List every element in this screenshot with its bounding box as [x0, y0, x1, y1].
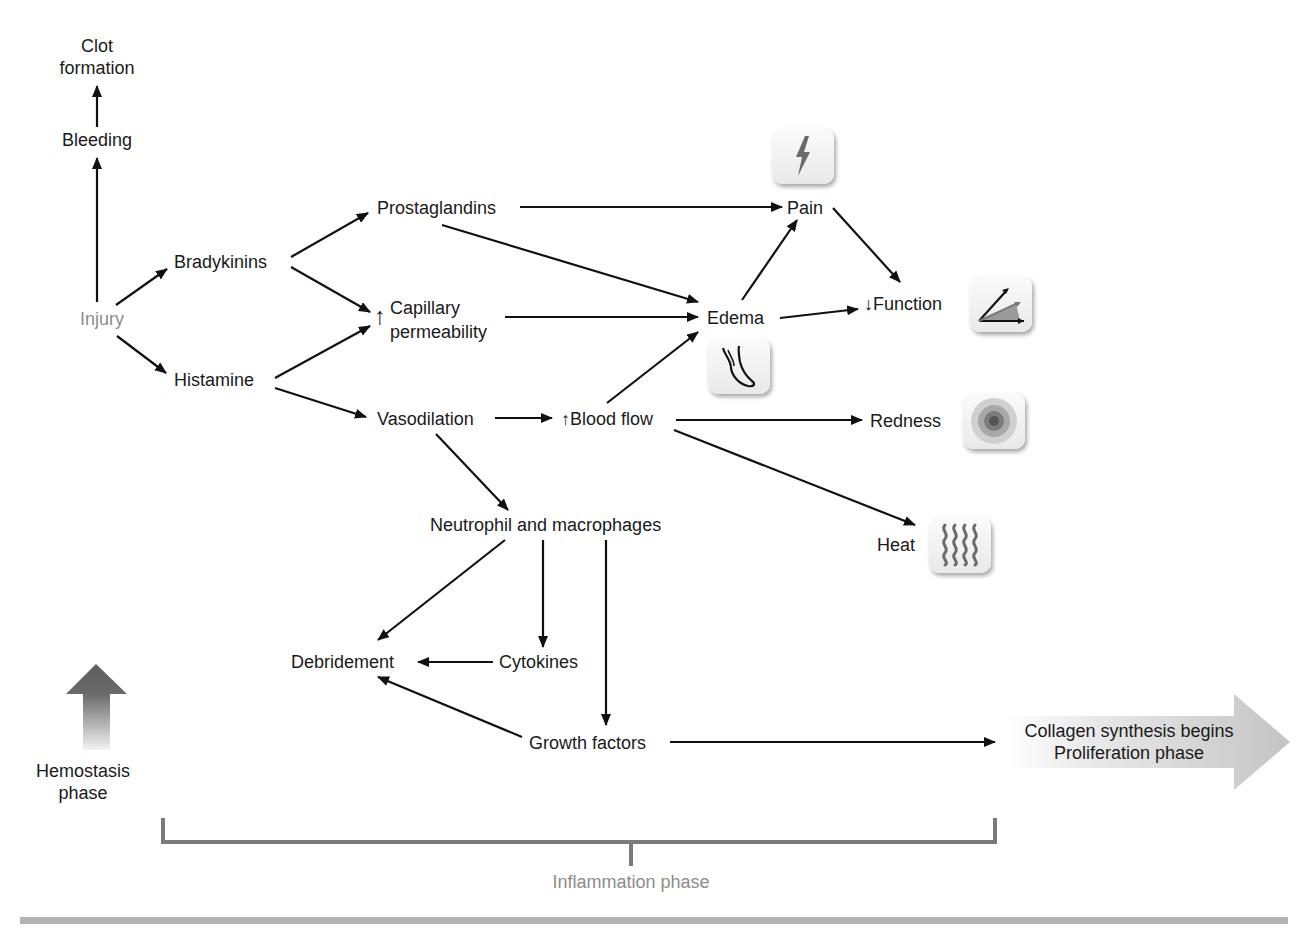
node-prostaglandins: Prostaglandins [377, 197, 496, 219]
label-hemostasis-phase: Hemostasis phase [36, 760, 130, 804]
footer-divider [20, 917, 1288, 924]
node-vasodilation: Vasodilation [377, 408, 474, 430]
node-cytokines: Cytokines [499, 651, 578, 673]
label-inflammation-phase: Inflammation phase [552, 871, 709, 893]
node-growth-factors: Growth factors [529, 732, 646, 754]
node-collagen-proliferation: Collagen synthesis begins Proliferation … [1024, 720, 1233, 764]
node-bradykinins: Bradykinins [174, 251, 267, 273]
node-clot-formation: Clot formation [59, 35, 134, 79]
range-of-motion-icon [970, 276, 1032, 332]
node-bleeding: Bleeding [62, 129, 132, 151]
node-blood-flow: ↑Blood flow [561, 408, 653, 430]
swollen-foot-icon [708, 338, 770, 394]
node-redness: Redness [870, 410, 941, 432]
lightning-icon [772, 128, 834, 184]
inflammation-bracket [163, 818, 995, 866]
concentric-circles-icon [963, 393, 1025, 449]
node-capillary-permeability: ↑ Capillary permeability [374, 297, 487, 343]
node-pain: Pain [787, 197, 823, 219]
heat-waves-icon [929, 517, 991, 573]
node-histamine: Histamine [174, 369, 254, 391]
hemostasis-arrow [66, 664, 127, 750]
node-edema: Edema [707, 307, 764, 329]
inflammation-diagram: Clot formation Bleeding Injury Bradykini… [0, 0, 1306, 931]
node-heat: Heat [877, 534, 915, 556]
increase-arrow-icon: ↑ [374, 301, 386, 331]
node-injury: Injury [80, 308, 124, 330]
node-debridement: Debridement [291, 651, 394, 673]
node-function: ↓Function [864, 293, 942, 315]
connector-arrows [0, 0, 1306, 931]
node-neutrophils-macrophages: Neutrophil and macrophages [430, 514, 661, 536]
